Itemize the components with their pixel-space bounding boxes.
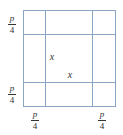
denominator: 4: [100, 121, 105, 131]
numerator: p: [99, 110, 106, 120]
label-bottom-right-p-over-4: p 4: [98, 110, 106, 131]
outer-square: [24, 11, 116, 107]
label-x-vertical: x: [50, 52, 54, 62]
label-left-bottom-p-over-4: p 4: [8, 84, 16, 105]
numerator: p: [32, 110, 39, 120]
denominator: 4: [10, 25, 15, 35]
label-left-top-p-over-4: p 4: [8, 14, 16, 35]
label-x-horizontal: x: [68, 70, 72, 80]
label-bottom-left-p-over-4: p 4: [31, 110, 39, 131]
numerator: p: [9, 84, 16, 94]
denominator: 4: [10, 95, 15, 105]
denominator: 4: [33, 121, 38, 131]
numerator: p: [9, 14, 16, 24]
